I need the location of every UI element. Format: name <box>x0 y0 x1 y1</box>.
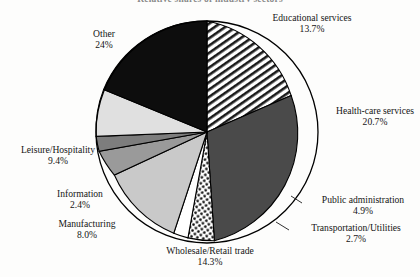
leader-line-transportation-utilities <box>276 222 289 230</box>
label-health-care-services-name: Health-care services <box>336 105 414 116</box>
label-information: Information 2.4% <box>42 188 118 211</box>
label-information-name: Information <box>57 188 103 199</box>
label-educational-services: Educational services 13.7% <box>252 12 372 35</box>
label-public-administration-pct: 4.9% <box>306 205 420 216</box>
label-other: Other 24% <box>76 28 132 51</box>
label-transportation-utilities-name: Transportation/Utilities <box>311 222 401 233</box>
label-educational-services-pct: 13.7% <box>252 23 372 34</box>
label-manufacturing: Manufacturing 8.0% <box>44 218 130 241</box>
label-educational-services-name: Educational services <box>272 12 351 23</box>
label-manufacturing-pct: 8.0% <box>44 229 130 240</box>
label-transportation-utilities: Transportation/Utilities 2.7% <box>292 222 420 245</box>
label-health-care-services: Health-care services 20.7% <box>330 105 420 128</box>
label-information-pct: 2.4% <box>42 199 118 210</box>
label-other-name: Other <box>93 28 115 39</box>
label-health-care-services-pct: 20.7% <box>330 116 420 127</box>
label-leisure-hospitality: Leisure/Hospitality 9.4% <box>4 144 112 167</box>
label-leisure-hospitality-name: Leisure/Hospitality <box>21 144 95 155</box>
label-public-administration-name: Public administration <box>322 194 404 205</box>
label-wholesale-retail-trade-pct: 14.3% <box>152 256 268 267</box>
label-wholesale-retail-trade-name: Wholesale/Retail trade <box>166 245 254 256</box>
label-transportation-utilities-pct: 2.7% <box>292 233 420 244</box>
label-manufacturing-name: Manufacturing <box>58 218 115 229</box>
label-other-pct: 24% <box>76 39 132 50</box>
label-leisure-hospitality-pct: 9.4% <box>4 155 112 166</box>
chart-page: Relative shares of industry sectors <box>0 0 420 277</box>
label-wholesale-retail-trade: Wholesale/Retail trade 14.3% <box>152 245 268 268</box>
label-public-administration: Public administration 4.9% <box>306 194 420 217</box>
